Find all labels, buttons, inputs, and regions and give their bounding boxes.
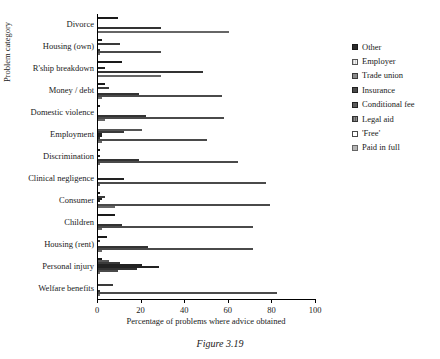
bar: [98, 240, 100, 242]
legend-item: Insurance: [352, 83, 438, 97]
bar-group: Discrimination: [98, 149, 315, 165]
bar-group: Clinical negligence: [98, 170, 315, 186]
category-label: Domestic violence: [31, 108, 95, 117]
bar: [98, 95, 222, 97]
bar: [98, 17, 118, 19]
bar: [98, 87, 109, 89]
legend: OtherEmployerTrade unionInsuranceConditi…: [352, 40, 438, 155]
bar: [98, 67, 105, 69]
bar: [98, 204, 270, 206]
bar: [98, 294, 100, 296]
bar: [98, 27, 161, 29]
category-label: Housing (rent): [44, 240, 94, 249]
legend-item: Conditional fee: [352, 98, 438, 112]
bar: [98, 248, 253, 250]
bar: [98, 250, 102, 252]
y-axis-title: Problem category: [2, 0, 12, 112]
legend-label: Legal aid: [362, 115, 394, 124]
legend-swatch: [352, 73, 358, 79]
bar: [98, 228, 102, 230]
bar: [98, 163, 100, 165]
x-tick: [141, 299, 142, 303]
bar: [98, 119, 105, 121]
bar: [98, 43, 120, 45]
legend-swatch: [352, 44, 358, 50]
legend-swatch: [352, 87, 358, 93]
category-label: Money / debt: [49, 86, 94, 95]
legend-item: Paid in full: [352, 141, 438, 155]
legend-label: Employer: [362, 57, 396, 66]
bar: [98, 292, 277, 294]
category-label: Consumer: [59, 196, 94, 205]
x-tick-label: 0: [95, 305, 99, 315]
figure-3-19: Problem category DivorceHousing (own)R's…: [0, 0, 440, 359]
bar-group: Welfare benefits: [98, 280, 315, 296]
category-label: Divorce: [67, 20, 94, 29]
legend-item: Legal aid: [352, 112, 438, 126]
legend-swatch: [352, 131, 358, 137]
bar-group: Money / debt: [98, 83, 315, 99]
bar: [98, 206, 115, 208]
bar: [98, 141, 102, 143]
bar: [98, 236, 107, 238]
category-label: Children: [64, 218, 94, 227]
plot-area: DivorceHousing (own)R'ship breakdownMone…: [97, 14, 315, 299]
bar: [98, 272, 100, 274]
category-label: Employment: [50, 130, 94, 139]
bar: [98, 31, 229, 33]
legend-label: Insurance: [362, 86, 395, 95]
bar-group: Domestic violence: [98, 105, 315, 121]
bar: [98, 53, 100, 55]
category-label: Housing (own): [43, 42, 94, 51]
legend-swatch: [352, 102, 358, 108]
x-axis: 020406080100: [97, 299, 315, 300]
bar: [98, 71, 203, 73]
category-label: Personal injury: [42, 262, 94, 271]
bar: [98, 192, 100, 194]
category-label: Welfare benefits: [38, 284, 94, 293]
legend-swatch: [352, 145, 358, 151]
legend-swatch: [352, 116, 358, 122]
bar: [98, 214, 115, 216]
bar: [98, 75, 161, 77]
legend-label: Paid in full: [362, 143, 400, 152]
bar: [98, 155, 100, 157]
legend-label: 'Free': [362, 129, 380, 138]
x-tick: [315, 299, 316, 303]
legend-label: Trade union: [362, 71, 403, 80]
bar: [98, 39, 102, 41]
bar: [98, 139, 207, 141]
bar-group: Consumer: [98, 192, 315, 208]
bar-group: Divorce: [98, 17, 315, 33]
bar: [98, 51, 161, 53]
bar-group: Children: [98, 214, 315, 230]
bar: [98, 83, 105, 85]
x-tick-label: 20: [136, 305, 145, 315]
bar: [98, 97, 102, 99]
bar: [98, 178, 124, 180]
x-tick: [184, 299, 185, 303]
legend-item: Employer: [352, 54, 438, 68]
category-label: R'ship breakdown: [33, 64, 94, 73]
x-tick: [97, 299, 98, 303]
bar-group: Employment: [98, 127, 315, 143]
bar: [98, 105, 100, 107]
x-tick: [228, 299, 229, 303]
bar: [98, 270, 118, 272]
bar: [98, 149, 100, 151]
category-label: Discrimination: [43, 152, 94, 161]
bar-group: Housing (rent): [98, 236, 315, 252]
bar: [98, 161, 238, 163]
bar: [98, 182, 266, 184]
bar: [98, 226, 253, 228]
x-tick-label: 40: [180, 305, 189, 315]
bar-group: R'ship breakdown: [98, 61, 315, 77]
bar: [98, 184, 100, 186]
legend-swatch: [352, 59, 358, 65]
bar: [98, 284, 113, 286]
bar: [98, 200, 100, 202]
legend-label: Conditional fee: [362, 100, 415, 109]
legend-item: Other: [352, 40, 438, 54]
x-tick-label: 60: [224, 305, 233, 315]
category-label: Clinical negligence: [28, 174, 94, 183]
